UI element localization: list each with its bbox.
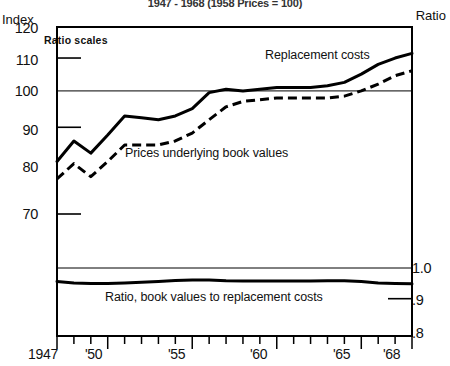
chart-plot-area: [0, 0, 450, 366]
series-line-prices-underlying-book-values: [57, 71, 412, 179]
gridlines: [57, 91, 412, 268]
series-line-replacement-costs: [57, 53, 412, 161]
left-axis-ticks: [57, 58, 81, 214]
series-line-ratio-book-to-replacement: [57, 280, 412, 284]
x-axis-ticks: [57, 336, 412, 349]
plot-frame: [57, 27, 412, 336]
